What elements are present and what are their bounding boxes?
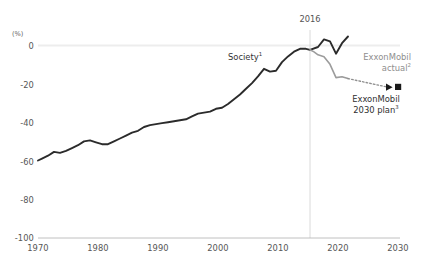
series-label-exxonmobil-2030-plan-line1: ExxonMobil	[340, 94, 412, 105]
y-tick-minus100: -100	[8, 233, 34, 243]
series-label-exxonmobil-2030-plan: ExxonMobil 2030 plan3	[340, 94, 412, 115]
series-exxonmobil-2030-plan-dotted	[348, 79, 388, 88]
y-tick-minus80: -80	[8, 195, 34, 205]
x-tick-1990: 1990	[138, 243, 178, 253]
series-label-society-footnote: 1	[259, 51, 262, 57]
x-tick-2030: 2030	[378, 243, 418, 253]
x-tick-1970: 1970	[18, 243, 58, 253]
series-label-exxonmobil-actual: ExxonMobil actual2	[345, 52, 411, 73]
series-label-society-text: Society	[228, 52, 259, 62]
series-label-exxonmobil-2030-plan-footnote: 3	[395, 104, 398, 110]
x-tick-2010: 2010	[258, 243, 298, 253]
y-tick-0: 0	[8, 41, 34, 51]
series-label-exxonmobil-actual-line1: ExxonMobil	[345, 52, 411, 63]
chart-plot-area	[0, 0, 423, 266]
chart-container: (%) 0 -20 -40 -60 -80 -100 1970 1980 199…	[0, 0, 423, 266]
x-tick-2000: 2000	[198, 243, 238, 253]
series-label-exxonmobil-2030-plan-line2: 2030 plan3	[340, 105, 412, 116]
reference-year-label: 2016	[288, 14, 332, 25]
series-society-line	[38, 37, 348, 161]
y-axis-unit-label: (%)	[12, 30, 23, 38]
plan-arrowhead-icon	[386, 84, 393, 91]
series-label-society: Society1	[228, 52, 262, 63]
y-tick-minus60: -60	[8, 157, 34, 167]
y-tick-minus20: -20	[8, 80, 34, 90]
plan-target-square-marker	[395, 84, 401, 90]
series-label-exxonmobil-actual-footnote: 2	[408, 62, 411, 68]
x-tick-2020: 2020	[318, 243, 358, 253]
series-exxonmobil-actual-line	[310, 50, 348, 79]
series-label-exxonmobil-actual-line2: actual2	[345, 63, 411, 74]
x-tick-1980: 1980	[78, 243, 118, 253]
y-tick-minus40: -40	[8, 118, 34, 128]
